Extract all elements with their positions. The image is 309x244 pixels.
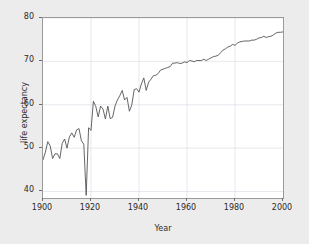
x-tick-mark [42,198,43,201]
y-tick-mark [39,17,42,18]
y-tick-mark [39,147,42,148]
x-tick-label: 1920 [80,204,100,212]
y-tick-label: 70 [8,56,34,64]
x-tick-label: 1900 [32,204,52,212]
x-tick-label: 1940 [128,204,148,212]
plot-panel [42,17,284,199]
y-tick-label: 80 [8,13,34,21]
x-tick-label: 2000 [272,204,292,212]
chart-figure: 4050607080 190019201940196019802000 life… [0,0,309,244]
y-axis-title: life expectancy [20,65,29,161]
x-tick-mark [282,198,283,201]
x-tick-label: 1960 [176,204,196,212]
x-axis-title: Year [42,224,284,233]
x-tick-mark [90,198,91,201]
y-tick-mark [39,60,42,61]
gridlines [43,18,283,198]
y-tick-mark [39,190,42,191]
x-tick-mark [186,198,187,201]
x-tick-label: 1980 [224,204,244,212]
data-line-life-expectancy [43,32,283,196]
x-tick-mark [234,198,235,201]
x-tick-mark [138,198,139,201]
y-tick-label: 40 [8,186,34,194]
life-expectancy-line-chart [43,18,283,198]
y-tick-mark [39,104,42,105]
